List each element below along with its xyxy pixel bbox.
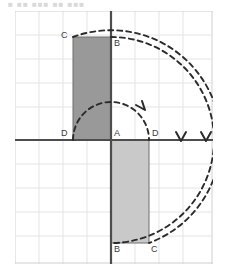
rectangle-image <box>111 140 149 243</box>
label-C-lower: C <box>151 245 158 254</box>
label-B-lower: B <box>114 245 120 254</box>
caption-strip: ■ ■■ ■■■ ■■ ■■■ <box>8 0 158 9</box>
rectangle-preimage <box>73 37 111 140</box>
rotation-diagram: ■ ■■ ■■■ ■■ ■■■ <box>0 0 246 279</box>
plot-area: C B D A D B C <box>15 11 213 264</box>
label-A-origin: A <box>114 129 120 138</box>
label-D-left: D <box>61 129 68 138</box>
label-C-upper: C <box>61 31 68 40</box>
label-B-upper: B <box>114 39 120 48</box>
arrowhead-D <box>136 101 145 110</box>
label-D-right: D <box>152 129 159 138</box>
